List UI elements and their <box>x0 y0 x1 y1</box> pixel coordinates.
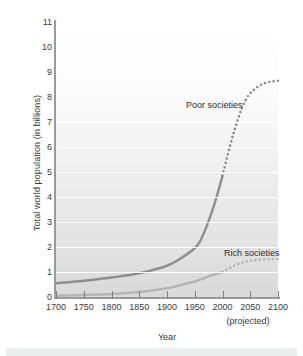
x-tick-mark-1900 <box>167 291 168 298</box>
projected-note: (projected) <box>203 316 293 326</box>
x-tick-mark-1700 <box>56 291 57 298</box>
y-tick-label-10: 10 <box>36 43 52 52</box>
x-tick-mark-1750 <box>84 291 85 298</box>
gridline-5 <box>56 172 278 173</box>
gridline-3 <box>56 222 278 223</box>
x-tick-mark-2000 <box>223 291 224 298</box>
y-tick-label-6: 6 <box>36 143 52 152</box>
gridline-1 <box>56 272 278 273</box>
y-tick-label-8: 8 <box>36 93 52 102</box>
x-tick-mark-1950 <box>195 291 196 298</box>
gridline-7 <box>56 122 278 123</box>
y-tick-label-11: 11 <box>36 18 52 27</box>
series-line-projected-poor-societies <box>223 81 279 176</box>
gridline-10 <box>56 47 278 48</box>
gridline-8 <box>56 97 278 98</box>
x-tick-mark-2100 <box>278 291 279 298</box>
y-tick-label-4: 4 <box>36 193 52 202</box>
y-tick-label-9: 9 <box>36 68 52 77</box>
x-axis-title: Year <box>56 332 278 342</box>
gridline-9 <box>56 72 278 73</box>
y-tick-label-3: 3 <box>36 218 52 227</box>
y-tick-label-0: 0 <box>36 293 52 302</box>
chart-figure: Total world population (in billions) 012… <box>0 0 303 356</box>
gridline-4 <box>56 197 278 198</box>
gridline-11 <box>56 22 278 23</box>
y-tick-label-7: 7 <box>36 118 52 127</box>
x-tick-mark-2050 <box>250 291 251 298</box>
gridline-6 <box>56 147 278 148</box>
x-tick-mark-1800 <box>112 291 113 298</box>
series-label-poor: Poor societies <box>186 100 243 110</box>
bottom-divider-strip <box>6 348 297 356</box>
x-tick-label-2100: 2100 <box>258 302 298 312</box>
y-tick-label-2: 2 <box>36 243 52 252</box>
x-tick-mark-1850 <box>139 291 140 298</box>
y-tick-label-5: 5 <box>36 168 52 177</box>
series-line-projected-rich-societies <box>223 259 279 272</box>
y-tick-label-1: 1 <box>36 268 52 277</box>
series-label-rich: Rich societies <box>224 248 280 258</box>
series-line-historical-poor-societies <box>56 176 223 284</box>
